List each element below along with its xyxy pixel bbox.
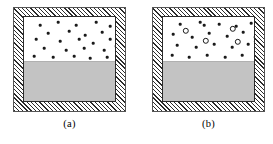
vapor-molecule-dot (103, 49, 106, 52)
vapor-molecule-dot (195, 46, 198, 49)
vapor-molecule-dot (247, 43, 250, 46)
vapor-molecule-dot (57, 21, 60, 24)
vapor-molecule-dot (92, 42, 95, 45)
vapor-molecule-dot (47, 32, 50, 35)
vapor-molecule-dot (218, 23, 221, 26)
vapor-molecule-dot (250, 22, 253, 25)
vapor-molecule-dot (83, 47, 86, 50)
vapor-molecule-dot (106, 56, 109, 59)
vapor-molecule-dot (254, 36, 255, 39)
vapor-molecule-dot (68, 30, 71, 33)
vapor-molecule-dot (109, 38, 112, 41)
vapor-molecule-dot (52, 56, 55, 59)
vessel-cavity-a (23, 16, 116, 102)
vapor-molecule-dot (115, 45, 116, 48)
vapor-molecule-dot (33, 55, 36, 58)
vapor-molecule-dot (199, 21, 202, 24)
vapor-molecule-dot (241, 54, 244, 57)
panel-b (152, 7, 265, 112)
caption-panel-b: (b) (152, 118, 265, 129)
vapor-molecule-dot (75, 24, 78, 27)
vapor-molecule-dot (95, 21, 98, 24)
figure-container: (a) (b) (0, 0, 273, 144)
vapor-molecule-dot (73, 55, 76, 58)
vapor-molecule-dot (59, 40, 62, 43)
vapor-region-a (24, 17, 115, 61)
liquid-region-a (24, 61, 115, 101)
vapor-molecule-dot (176, 44, 179, 47)
caption-panel-a: (a) (13, 118, 126, 129)
vapor-molecule-dot (89, 57, 92, 60)
vapor-molecule-dot (109, 25, 112, 28)
vapor-molecule-dot (213, 43, 216, 46)
vapor-molecule-dot (179, 23, 182, 26)
vapor-molecule-dot (35, 38, 38, 41)
vapor-molecule-dot (84, 34, 87, 37)
vapor-molecule-dot (188, 56, 191, 59)
vapor-molecule-dot (171, 54, 174, 57)
vessel-cavity-b (162, 16, 255, 102)
vapor-molecule-dot (203, 24, 206, 27)
panel-a (13, 7, 126, 112)
vapor-molecule-dot (101, 31, 104, 34)
vapor-molecule-dot (78, 38, 81, 41)
vapor-molecule-dot (231, 46, 234, 49)
vapor-molecule-dot (242, 31, 245, 34)
vapor-molecule-dot (224, 56, 227, 59)
vapor-molecule-dot (208, 32, 211, 35)
vapor-molecule-dot (65, 49, 68, 52)
liquid-region-b (163, 61, 254, 101)
vapor-molecule-dot (191, 36, 194, 39)
vapor-molecule-dot (39, 24, 42, 27)
vapor-molecule-dot (206, 54, 209, 57)
vapor-molecule-dot (226, 35, 229, 38)
vapor-molecule-dot (43, 47, 46, 50)
vapor-molecule-dot (172, 33, 175, 36)
